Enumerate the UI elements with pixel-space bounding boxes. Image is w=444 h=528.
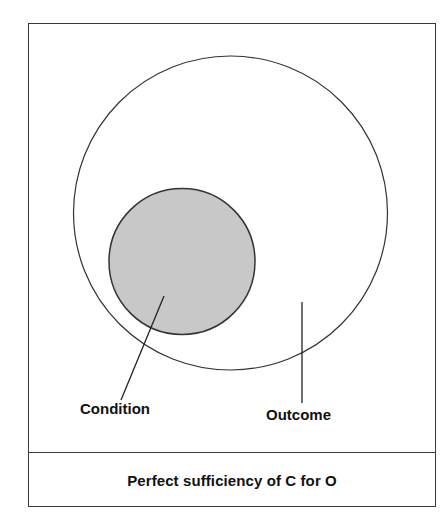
diagram-caption: Perfect sufficiency of C for O — [28, 454, 436, 506]
condition-label: Condition — [80, 400, 150, 417]
outcome-label: Outcome — [266, 406, 331, 423]
condition-set-circle — [109, 189, 255, 335]
caption-divider — [28, 452, 436, 453]
venn-diagram — [0, 0, 444, 528]
